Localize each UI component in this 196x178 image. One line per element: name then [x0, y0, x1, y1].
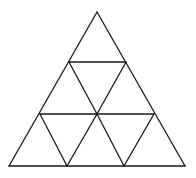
bottom-diagonal-2	[67, 114, 97, 166]
bottom-diagonal-1	[40, 114, 67, 166]
triangle-diagram	[0, 0, 196, 178]
bottom-diagonal-3	[97, 114, 124, 166]
mid-right-diagonal	[97, 62, 126, 114]
bottom-diagonal-4	[124, 114, 154, 166]
triangle-figure	[0, 0, 196, 178]
mid-left-diagonal	[69, 62, 97, 114]
